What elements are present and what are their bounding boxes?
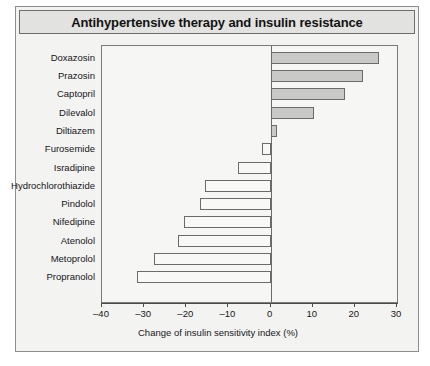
bar-furosemide (262, 143, 270, 155)
x-tick-label: –10 (219, 308, 235, 319)
bar-doxazosin (271, 52, 379, 64)
x-tick-label: –20 (177, 308, 193, 319)
y-axis-label-atenolol: Atenolol (61, 234, 95, 245)
bar-metoprolol (154, 253, 271, 265)
zero-reference-line (271, 46, 272, 302)
y-axis-label-metoprolol: Metoprolol (51, 253, 95, 264)
x-tick-label: 10 (306, 308, 317, 319)
bar-isradipine (238, 162, 270, 174)
y-axis-label-hydrochlorothiazide: Hydrochlorothiazide (11, 179, 95, 190)
x-tick-mark (396, 303, 397, 307)
x-tick-mark (312, 303, 313, 307)
y-axis-category-labels: DoxazosinPrazosinCaptoprilDilevalolDilti… (16, 45, 99, 303)
x-tick-mark (101, 303, 102, 307)
bar-hydrochlorothiazide (205, 180, 270, 192)
bar-pindolol (200, 198, 270, 210)
y-axis-label-dilevalol: Dilevalol (59, 106, 95, 117)
y-axis-label-doxazosin: Doxazosin (51, 51, 95, 62)
bar-dilevalol (271, 107, 315, 119)
bar-prazosin (271, 70, 364, 82)
y-axis-label-prazosin: Prazosin (58, 70, 95, 81)
x-tick-label: –40 (93, 308, 109, 319)
y-axis-label-furosemide: Furosemide (45, 143, 95, 154)
bar-nifedipine (184, 216, 270, 228)
chart-figure: Antihypertensive therapy and insulin res… (15, 6, 419, 352)
plot-area (101, 45, 398, 303)
y-axis-label-isradipine: Isradipine (54, 161, 95, 172)
bar-captopril (271, 88, 345, 100)
x-tick-mark (143, 303, 144, 307)
x-tick-mark (270, 303, 271, 307)
chart-title-bar: Antihypertensive therapy and insulin res… (19, 10, 415, 34)
x-tick-label: 30 (391, 308, 402, 319)
x-axis-title: Change of insulin sensitivity index (%) (16, 327, 420, 338)
bar-diltiazem (271, 125, 277, 137)
x-tick-mark (227, 303, 228, 307)
bar-propranolol (137, 271, 271, 283)
y-axis-label-propranolol: Propranolol (46, 271, 95, 282)
x-tick-label: 20 (349, 308, 360, 319)
bar-atenolol (178, 235, 271, 247)
y-axis-label-pindolol: Pindolol (61, 198, 95, 209)
y-axis-label-nifedipine: Nifedipine (53, 216, 95, 227)
page-title: Antihypertensive therapy and insulin res… (71, 15, 363, 30)
x-tick-label: –30 (135, 308, 151, 319)
x-tick-label: 0 (267, 308, 272, 319)
x-tick-mark (185, 303, 186, 307)
y-axis-label-diltiazem: Diltiazem (56, 125, 95, 136)
y-axis-label-captopril: Captopril (57, 88, 95, 99)
x-tick-mark (354, 303, 355, 307)
